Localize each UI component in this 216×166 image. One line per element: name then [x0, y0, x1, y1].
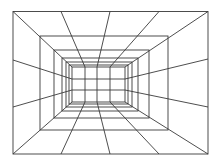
nested-frames-group: [13, 12, 208, 155]
radial-line-corner-top-left: [13, 12, 72, 68]
radial-line-corner-top-right: [125, 12, 208, 68]
radial-line-ceiling-2: [97, 12, 110, 68]
radial-line-left-wall-2: [13, 90, 72, 107]
radial-line-floor-3: [110, 102, 159, 154]
radial-line-ceiling-1: [61, 12, 85, 68]
tunnel-grid-svg: [0, 0, 216, 166]
perspective-tunnel-diagram: [0, 0, 216, 166]
radial-line-floor-1: [61, 102, 85, 154]
radial-line-corner-bottom-left: [13, 102, 72, 154]
radial-line-right-wall-1: [125, 59, 208, 79]
depth-frame-5: [69, 65, 128, 104]
radial-line-ceiling-3: [110, 12, 159, 68]
radial-line-left-wall-1: [13, 60, 72, 79]
radial-line-right-wall-2: [125, 90, 208, 107]
outer-frame: [13, 12, 208, 155]
radial-line-floor-2: [97, 102, 110, 154]
back-wall-frame: [72, 67, 125, 102]
back-wall-grid-group: [72, 67, 125, 102]
depth-frame-4: [66, 62, 132, 107]
radial-lines-group: [13, 12, 208, 155]
radial-line-corner-bottom-right: [125, 102, 208, 154]
